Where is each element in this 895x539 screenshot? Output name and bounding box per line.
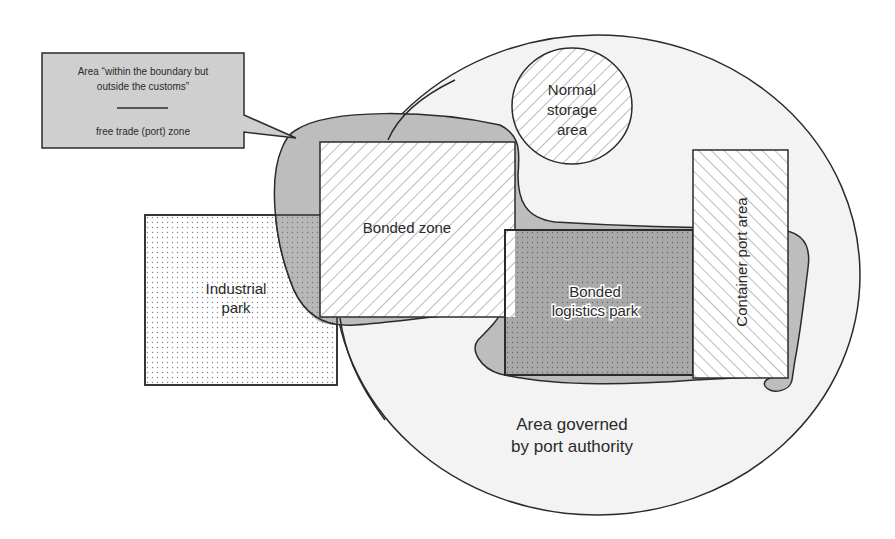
bonded-zone-label: Bonded zone bbox=[363, 219, 451, 236]
port-authority-label-line1: Area governed bbox=[516, 415, 628, 434]
normal-storage-label-line2: storage bbox=[547, 101, 597, 118]
port-authority-label-line2: by port authority bbox=[511, 437, 633, 456]
callout-text-line2: outside the customs” bbox=[97, 81, 189, 92]
normal-storage-label-line1: Normal bbox=[548, 81, 596, 98]
callout-text-line1: Area “within the boundary but bbox=[78, 66, 209, 77]
normal-storage-label-line3: area bbox=[557, 121, 588, 138]
industrial-park-label-line2: park bbox=[221, 299, 251, 316]
industrial-park-label-line1: Industrial bbox=[206, 280, 267, 297]
svg-text:Bonded: Bonded bbox=[569, 283, 621, 300]
container-port-area-label: Container port area bbox=[733, 197, 750, 327]
svg-text:logistics park: logistics park bbox=[552, 302, 639, 319]
port-zones-diagram: Area “within the boundary but outside th… bbox=[0, 0, 895, 539]
callout-text-line3: free trade (port) zone bbox=[96, 126, 190, 137]
